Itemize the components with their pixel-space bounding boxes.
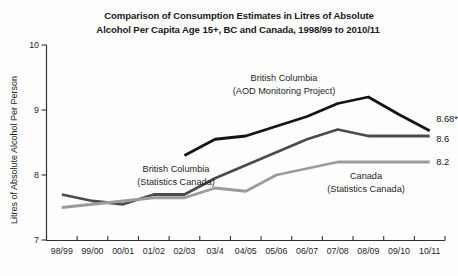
chart-container: Comparison of Consumption Estimates in L… [0, 0, 458, 276]
end-value-label: 8.2 [436, 157, 449, 167]
chart-title-line2: Alcohol Per Capita Age 15+, BC and Canad… [96, 24, 380, 35]
series-line-0 [184, 97, 429, 156]
series-annotation: British Columbia [251, 73, 319, 83]
axis-frame [47, 45, 446, 241]
x-tick-label: 08/09 [357, 246, 379, 256]
y-axis-title: Litres of Absolute Alcohol Per Person [9, 76, 19, 224]
x-tick-label: 01/02 [143, 246, 165, 256]
x-tick-label: 04/05 [235, 246, 257, 256]
x-tick-label: 05/06 [265, 246, 287, 256]
chart-labels: 7891098/9999/0000/0101/0202/0303/404/050… [29, 40, 458, 256]
end-value-label: 8.6 [436, 134, 449, 144]
series-annotation: (Statistics Canada) [137, 177, 215, 187]
series-annotation: Canada [350, 171, 383, 181]
x-tick-label: 03/4 [207, 246, 224, 256]
x-tick-label: 00/01 [112, 246, 134, 256]
x-tick-label: 09/10 [388, 246, 410, 256]
chart-plot: Comparison of Consumption Estimates in L… [0, 0, 458, 276]
y-tick-label: 8 [34, 170, 39, 180]
axes [42, 45, 446, 241]
x-tick-label: 98/99 [51, 246, 73, 256]
x-tick-label: 10/11 [419, 246, 440, 256]
chart-title-line1: Comparison of Consumption Estimates in L… [104, 10, 374, 21]
x-tick-label: 02/03 [173, 246, 195, 256]
y-tick-label: 7 [34, 235, 39, 245]
series-annotation: (Statistics Canada) [327, 184, 405, 194]
x-tick-label: 99/00 [81, 246, 103, 256]
series-annotation: British Columbia [143, 164, 211, 174]
end-value-label: 8.68* [436, 114, 458, 124]
x-tick-label: 07/08 [327, 246, 349, 256]
x-tick-label: 06/07 [296, 246, 318, 256]
series-annotation: (AOD Monitoring Project) [233, 86, 336, 96]
y-tick-label: 10 [29, 40, 39, 50]
y-tick-label: 9 [34, 105, 39, 115]
